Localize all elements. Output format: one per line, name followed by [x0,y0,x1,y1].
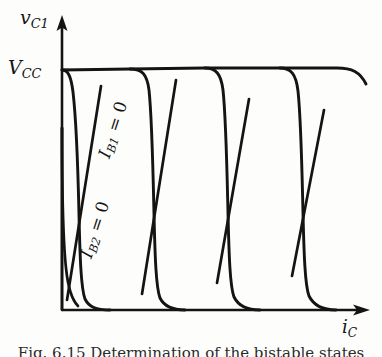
load-line-4 [292,110,324,276]
load-line-1 [67,86,101,300]
figure-caption: Fig. 6.15 Determination of the bistable … [0,344,382,357]
figure-container: vC1 VCC iC IB1 = 0 IB2 = 0 Fig. 6.15 Det… [0,0,382,357]
vcc-level-label: VCC [8,58,42,77]
characteristic-curve-plot [0,0,382,357]
load-lines [67,80,324,300]
x-axis-label: iC [342,318,357,336]
switching-characteristic-curve [62,68,366,310]
load-line-2 [142,80,176,294]
y-axis-label: vC1 [20,8,49,27]
load-line-3 [217,99,249,283]
